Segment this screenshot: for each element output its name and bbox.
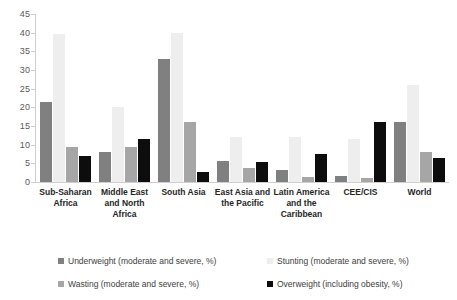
bar [99,152,111,182]
chart-legend: Underweight (moderate and severe, %)Stun… [58,250,448,296]
y-axis-tick-mark [31,145,35,146]
y-axis-tick-label: 45 [2,10,30,19]
bar [53,34,65,182]
y-axis-tick-label: 20 [2,103,30,112]
y-axis-tick-label: 0 [2,178,30,187]
legend-item[interactable]: Underweight (moderate and severe, %) [58,250,253,272]
x-axis-category-label: Middle East and North Africa [95,187,154,249]
y-axis-tick-label: 15 [2,122,30,131]
bar [230,137,242,182]
malnutrition-bar-chart: 454035302520151050 Sub-Saharan AfricaMid… [0,0,457,300]
bar [256,162,268,182]
legend-item[interactable]: Overweight (including obesity, %) [253,273,448,295]
y-axis-tick-label: 30 [2,66,30,75]
bar [302,177,314,182]
legend-item[interactable]: Wasting (moderate and severe, %) [58,273,253,295]
x-axis-category-label: World [390,187,449,249]
bar [40,102,52,182]
bar-group [213,14,272,182]
y-axis-tick-mark [31,163,35,164]
bar-group [331,14,390,182]
bar [125,147,137,182]
x-axis-category-label: Latin America and the Caribbean [272,187,331,249]
y-axis-tick-mark [31,107,35,108]
bar [374,122,386,182]
bar [276,170,288,182]
bar [158,59,170,182]
bar [66,147,78,182]
legend-swatch-icon [267,258,273,264]
bar-group [36,14,95,182]
x-axis-category-label: East Asia and the Pacific [213,187,272,249]
y-axis-tick-label: 40 [2,28,30,37]
bar-group [390,14,449,182]
bar [407,85,419,182]
x-axis-category-label: CEE/CIS [331,187,390,249]
bar [243,168,255,182]
legend-label: Wasting (moderate and severe, %) [68,279,199,289]
bar [197,172,209,182]
y-axis-tick-label: 25 [2,84,30,93]
bar-group [95,14,154,182]
legend-label: Stunting (moderate and severe, %) [277,256,409,266]
bar-group [272,14,331,182]
bar [433,158,445,182]
bar [361,178,373,182]
bar-group [154,14,213,182]
x-axis-category-label: Sub-Saharan Africa [36,187,95,249]
y-axis-tick-label: 5 [2,159,30,168]
bar [184,122,196,182]
legend-swatch-icon [267,281,273,287]
legend-swatch-icon [58,281,64,287]
bar [79,156,91,182]
y-axis-tick-mark [31,126,35,127]
bar [138,139,150,182]
x-axis-baseline [35,182,449,183]
y-axis-tick-label: 10 [2,140,30,149]
bar [217,161,229,182]
legend-swatch-icon [58,258,64,264]
bar [171,33,183,182]
bar [315,154,327,182]
x-axis-category-labels: Sub-Saharan AfricaMiddle East and North … [36,187,449,249]
x-axis-category-label: South Asia [154,187,213,249]
y-axis-tick-labels: 454035302520151050 [0,0,30,190]
legend-item[interactable]: Stunting (moderate and severe, %) [253,250,448,272]
bar [394,122,406,182]
legend-label: Underweight (moderate and severe, %) [68,256,216,266]
y-axis-tick-mark [31,51,35,52]
bar [112,107,124,182]
y-axis-tick-mark [31,182,35,183]
bar [420,152,432,182]
bar [289,137,301,182]
y-axis-tick-mark [31,89,35,90]
plot-area: 454035302520151050 [0,0,457,190]
bar [335,176,347,182]
y-axis-tick-label: 35 [2,47,30,56]
y-axis-tick-mark [31,14,35,15]
bar [348,139,360,182]
y-axis-tick-mark [31,33,35,34]
bar-groups [36,14,449,182]
y-axis-tick-mark [31,70,35,71]
legend-label: Overweight (including obesity, %) [277,279,403,289]
